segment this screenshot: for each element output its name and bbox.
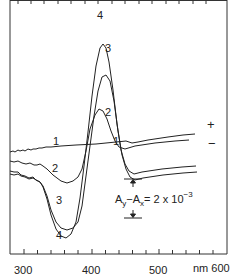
axes-frame (10, 0, 227, 254)
curve-label-4-top: 4 (97, 9, 103, 21)
minus-sign: − (208, 136, 216, 151)
curve-3 (10, 75, 197, 230)
curve-label-2-top: 2 (105, 106, 111, 118)
curve-1 (10, 134, 195, 152)
curve-label-3-top: 3 (105, 42, 111, 54)
chart: 4 3 2 1 1 2 3 4 + − Ay−Ax= 2 x 10−3 300 … (0, 0, 239, 280)
curve-label-3-left: 3 (56, 194, 62, 206)
curve-label-2-left: 2 (52, 162, 58, 174)
x-ticks (18, 0, 213, 254)
plus-sign: + (207, 117, 215, 132)
scale-bar-label: Ay−Ax= 2 x 10−3 (115, 190, 193, 208)
curve-label-4-left: 4 (56, 229, 62, 241)
curve-4 (10, 44, 196, 238)
curve-label-1-right: 1 (113, 135, 119, 147)
x-tick-400: 400 (82, 264, 100, 276)
curve-label-1-left: 1 (53, 135, 59, 147)
x-tick-500: 500 (149, 264, 167, 276)
x-tick-300: 300 (14, 264, 32, 276)
x-tick-600: nm 600 (193, 262, 230, 274)
curve-2 (10, 109, 189, 183)
